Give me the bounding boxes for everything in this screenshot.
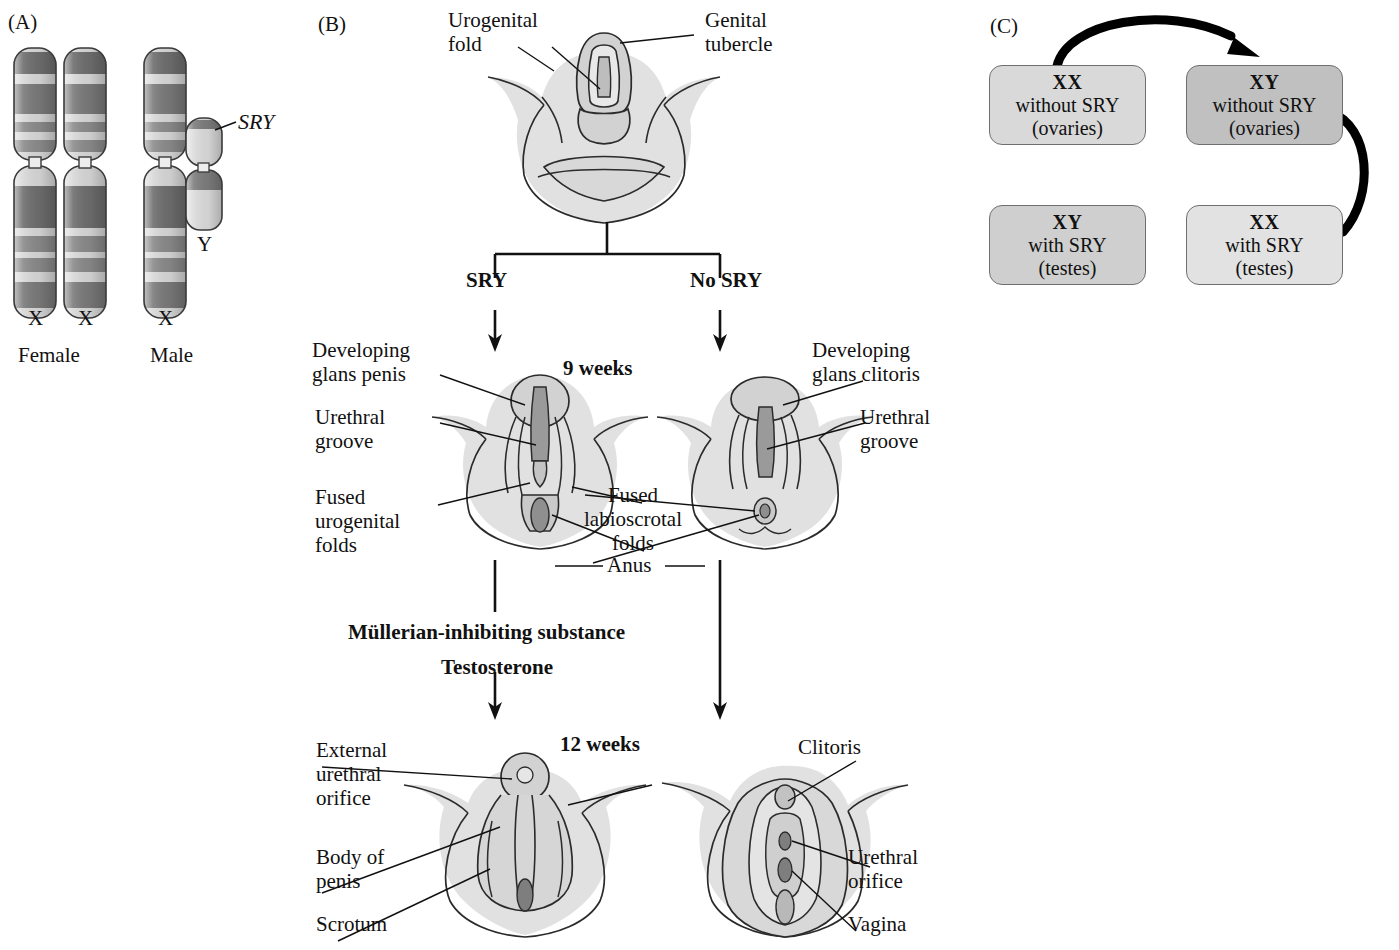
box-xy-without-sry-genotype: XY (1250, 71, 1280, 94)
clitoris-label: Clitoris (798, 735, 861, 759)
box-xx-with-sry[interactable]: XX with SRY (testes) (1186, 205, 1343, 285)
box-xy-with-sry-sry: with SRY (1028, 234, 1106, 257)
x-label-1: X (28, 306, 43, 330)
chromosome-x-3 (144, 48, 186, 318)
female-group-label: Female (18, 343, 80, 367)
box-xy-without-sry[interactable]: XY without SRY (ovaries) (1186, 65, 1343, 145)
fused-labioscrotal-folds-label: Fused labioscrotal folds (584, 483, 682, 555)
box-xy-without-sry-sry: without SRY (1213, 94, 1317, 117)
genital-tubercle-label: Genital tubercle (705, 8, 773, 56)
male-group-label: Male (150, 343, 193, 367)
fused-urogenital-folds-label: Fused urogenital folds (315, 485, 400, 557)
branch-label-no-sry: No SRY (690, 268, 762, 292)
box-xx-without-sry-sry: without SRY (1016, 94, 1120, 117)
chromosome-x-2 (64, 48, 106, 318)
box-xy-without-sry-gonad: (ovaries) (1229, 117, 1300, 140)
hormone-mis-label: Müllerian-inhibiting substance (348, 620, 625, 644)
developing-glans-penis-label: Developing glans penis (312, 338, 410, 386)
male-12weeks-drawing (400, 745, 660, 945)
urethral-groove-male-label: Urethral groove (315, 405, 385, 453)
box-xy-with-sry-gonad: (testes) (1039, 257, 1097, 280)
chromosome-y (186, 118, 222, 230)
genital-tubercle-leader (620, 35, 694, 43)
arrow-top-xx-to-xy (1057, 20, 1260, 66)
urethral-groove-female-label: Urethral groove (860, 405, 930, 453)
x-label-3: X (158, 306, 173, 330)
panel-b-tag: (B) (318, 12, 346, 37)
sry-gene-label: SRY (238, 110, 274, 134)
developing-glans-clitoris-label: Developing glans clitoris (812, 338, 920, 386)
chromosome-x-1 (14, 48, 56, 318)
box-xx-with-sry-sry: with SRY (1225, 234, 1303, 257)
y-chromosome-label: Y (197, 232, 212, 256)
box-xx-with-sry-genotype: XX (1250, 211, 1280, 234)
urogenital-fold-label: Urogenital fold (448, 8, 538, 56)
branch-label-sry: SRY (466, 268, 507, 292)
box-xx-without-sry-gonad: (ovaries) (1032, 117, 1103, 140)
figure-root: (A) (0, 0, 1399, 950)
x-label-2: X (78, 306, 93, 330)
box-xx-with-sry-gonad: (testes) (1236, 257, 1294, 280)
female-9weeks-drawing (655, 365, 875, 565)
scrotum-label: Scrotum (316, 912, 387, 936)
box-xy-with-sry[interactable]: XY with SRY (testes) (989, 205, 1146, 285)
box-xy-with-sry-genotype: XY (1053, 211, 1083, 234)
urethral-orifice-female-label: Urethral orifice (848, 845, 918, 893)
vagina-label: Vagina (848, 912, 906, 936)
box-xx-without-sry-genotype: XX (1053, 71, 1083, 94)
body-of-penis-label: Body of penis (316, 845, 384, 893)
external-urethral-orifice-label: External urethral orifice (316, 738, 387, 810)
box-xx-without-sry[interactable]: XX without SRY (ovaries) (989, 65, 1146, 145)
hormone-testosterone-label: Testosterone (441, 655, 553, 679)
indifferent-stage-drawing (480, 25, 760, 235)
panel-a-chromosomes (0, 0, 310, 370)
